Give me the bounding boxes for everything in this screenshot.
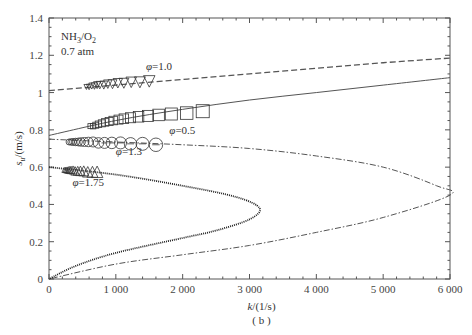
y-tick-label: 0.6 [29,161,43,173]
series-label: φ=1.75 [72,176,104,188]
subfigure-label: ( b ) [252,314,271,327]
y-tick-label: 0 [38,273,44,285]
axis-ticks: 01 0002 0003 0004 0005 0006 00000.20.40.… [29,12,463,295]
pressure-label: 0.7 atm [61,45,94,57]
series-label: φ=0.5 [169,124,196,136]
y-tick-label: 0.4 [29,198,43,210]
x-tick-label: 1 000 [103,283,128,295]
x-tick-label: 4 000 [304,283,329,295]
triangle-down-marker [100,81,108,89]
x-tick-label: 3 000 [237,283,262,295]
y-tick-label: 0.2 [29,236,43,248]
x-tick-label: 6 000 [438,283,463,295]
series-line [49,139,453,279]
x-tick-label: 2 000 [170,283,195,295]
x-tick-label: 5 000 [371,283,396,295]
data-series [49,58,453,279]
x-tick-label: 0 [46,283,52,295]
x-axis-title: k/(1/s) [247,300,275,313]
series-φ=1.3 [49,137,453,279]
square-marker [165,108,177,120]
mixture-label: NH3/O2 [61,30,96,45]
y-tick-label: 1.4 [29,12,43,24]
y-tick-label: 0.8 [29,124,43,136]
series-label: φ=1.3 [116,145,143,157]
series-φ=1.0 [49,58,450,91]
series-label: φ=1.0 [146,60,173,72]
square-marker [153,109,165,121]
chart: 01 0002 0003 0004 0005 0006 00000.20.40.… [0,0,472,335]
y-axis-title: su/(m/s) [12,131,27,166]
y-tick-label: 1.2 [29,49,43,61]
y-tick-label: 1 [38,87,44,99]
